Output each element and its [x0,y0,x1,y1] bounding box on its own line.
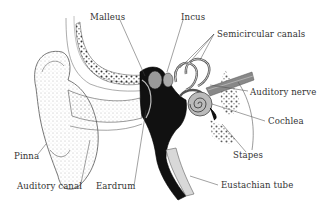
label-incus: Incus [181,12,205,22]
cochlea-shape [188,92,216,120]
label-auditory-canal: Auditory canal [17,181,82,191]
label-malleus: Malleus [90,12,125,22]
label-stapes: Stapes [233,150,263,160]
label-semicircular-canals: Semicircular canals [217,29,305,39]
label-auditory-nerve: Auditory nerve [250,87,316,97]
label-eardrum: Eardrum [96,181,136,191]
label-pinna: Pinna [14,151,39,161]
ear-anatomy-diagram: Malleus Incus Semicircular canals Audito… [0,0,330,209]
label-cochlea: Cochlea [268,116,304,126]
label-eustachian-tube: Eustachian tube [221,180,293,190]
